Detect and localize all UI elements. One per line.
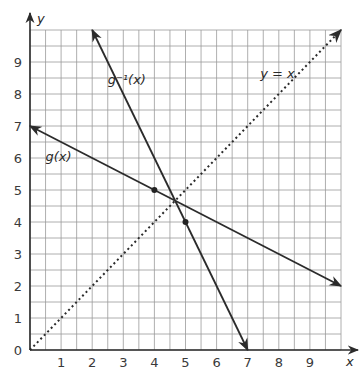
x-tick-label: 6 [212, 355, 220, 370]
x-tick-label: 4 [150, 355, 158, 370]
x-tick-label: 7 [244, 355, 252, 370]
g-label: g(x) [46, 149, 72, 164]
y-tick-label: 6 [14, 151, 22, 166]
y-axis-label: y [36, 11, 45, 26]
function-graph: 1234567890123456789 x y g(x) g⁻¹(x) y = … [0, 0, 362, 387]
y-tick-label: 3 [14, 247, 22, 262]
y-tick-label: 7 [14, 119, 22, 134]
y-tick-label: 8 [14, 87, 22, 102]
y-tick-label: 5 [14, 183, 22, 198]
x-axis-label: x [345, 354, 354, 369]
y-equals-x-label: y = x [259, 66, 295, 81]
y-tick-label: 1 [14, 311, 22, 326]
g-inverse-label: g⁻¹(x) [108, 72, 146, 87]
x-tick-label: 3 [119, 355, 127, 370]
x-tick-label: 9 [306, 355, 314, 370]
x-tick-label: 8 [275, 355, 283, 370]
y-tick-label: 2 [14, 279, 22, 294]
x-tick-label: 5 [181, 355, 189, 370]
point-marker [151, 187, 157, 193]
point-marker [183, 219, 189, 225]
y-tick-label: 4 [14, 215, 22, 230]
y-tick-label: 0 [14, 343, 22, 358]
y-tick-label: 9 [14, 55, 22, 70]
x-tick-label: 2 [88, 355, 96, 370]
x-tick-label: 1 [57, 355, 65, 370]
